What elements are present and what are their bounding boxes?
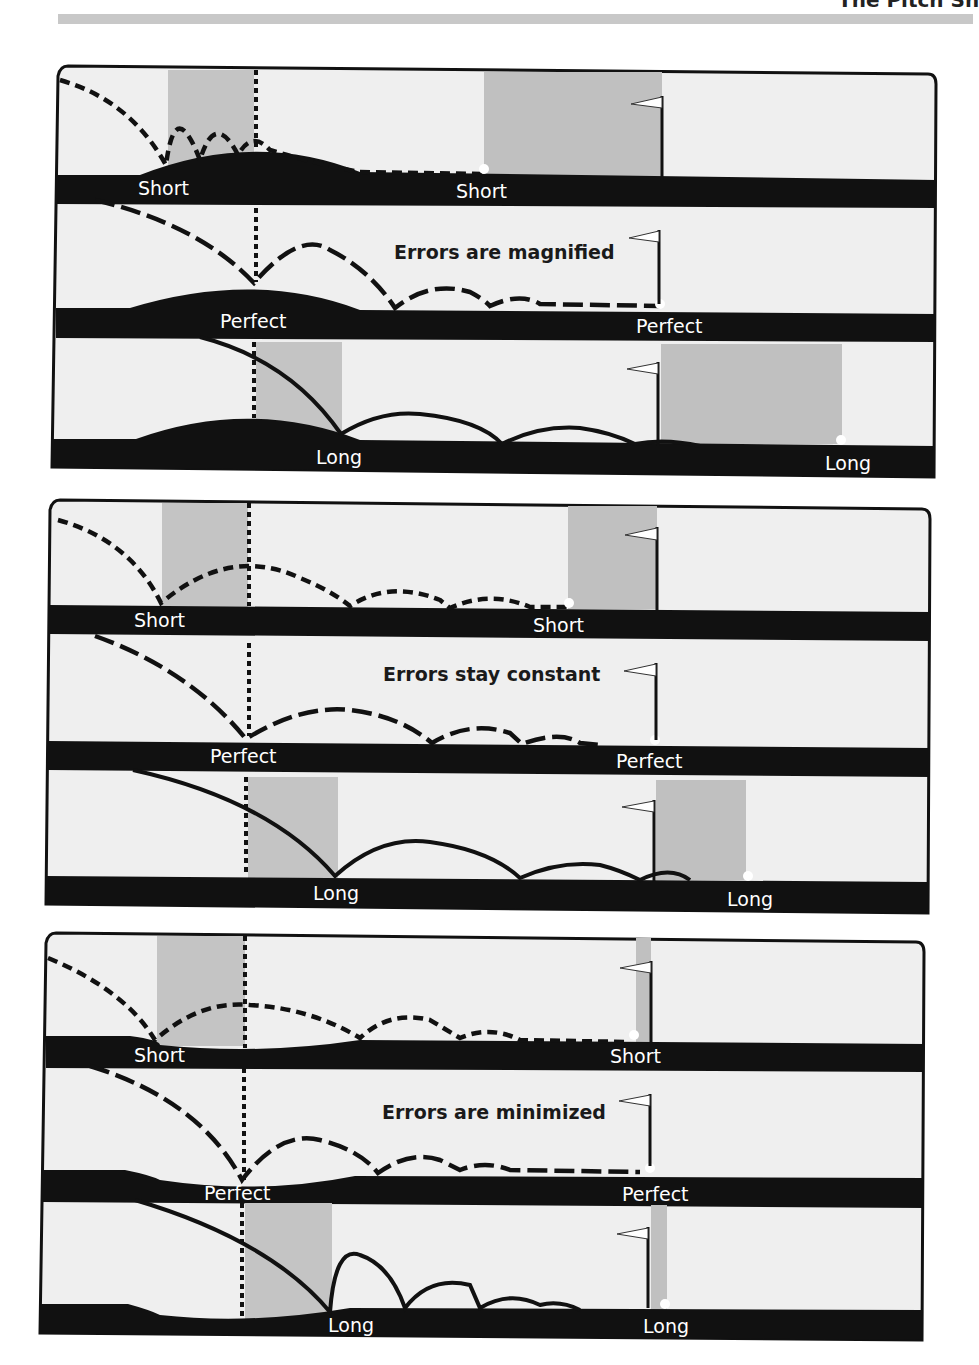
- result-zone-shade: [651, 1205, 667, 1310]
- landing-zone-shade: [245, 1203, 332, 1321]
- result-label: Short: [610, 1045, 661, 1067]
- ball: [660, 1299, 670, 1309]
- result-label: Long: [643, 1315, 689, 1337]
- ball: [629, 1030, 639, 1040]
- landing-label: Short: [134, 1044, 185, 1066]
- landing-label: Perfect: [204, 1182, 271, 1204]
- result-zone-shade: [636, 938, 651, 1042]
- result-label: Perfect: [622, 1183, 689, 1205]
- landing-zone-shade: [157, 936, 245, 1046]
- landing-label: Long: [328, 1314, 374, 1336]
- caption: Errors are minimized: [382, 1101, 606, 1123]
